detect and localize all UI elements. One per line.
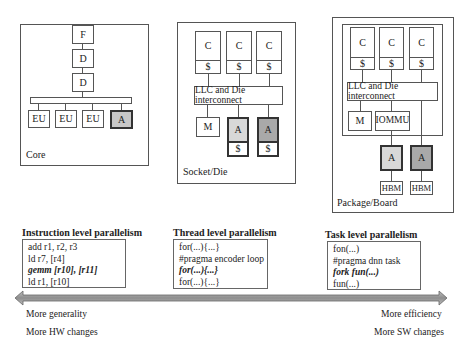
connector — [238, 105, 239, 117]
package-hbm-2: HBM — [410, 181, 433, 195]
package-interconnect: LLC and Die interconnect — [347, 82, 438, 101]
right-label-efficiency: More efficiency — [381, 309, 442, 319]
code-line: ld r7, [r4] — [28, 254, 120, 266]
package-cache-3: $ — [409, 57, 434, 70]
socket-core-2: C — [226, 31, 252, 61]
decode-block-2: D — [72, 73, 94, 92]
socket-interconnect: LLC and Die interconnect — [194, 86, 283, 105]
execution-unit-1: EU — [28, 110, 50, 128]
socket-cache-3: $ — [256, 60, 282, 74]
code-line: for(...){...} — [179, 242, 262, 254]
code-line-emphasized: for(...){...} — [179, 265, 262, 277]
socket-accelerator-2: A — [257, 117, 279, 143]
ilp-code-box: add r1, r2, r3 ld r7, [r4] gemm [r10], [… — [22, 239, 126, 288]
connector — [207, 105, 208, 117]
package-core-1: C — [350, 27, 375, 58]
code-line: add r1, r2, r3 — [28, 242, 120, 254]
code-line: fon(...) — [333, 244, 415, 256]
ilp-title: Instruction level parallelism — [22, 227, 142, 238]
package-cache-1: $ — [350, 57, 375, 70]
connector — [391, 101, 392, 111]
decode-block-1: D — [72, 49, 94, 68]
code-line: fun(...) — [333, 279, 415, 291]
left-label-hw-changes: More HW changes — [26, 327, 98, 337]
socket-core-1: C — [195, 31, 221, 61]
socket-memory: M — [196, 117, 220, 137]
code-line: #pragma encoder loop — [179, 254, 262, 266]
socket-accelerator-1: A — [227, 117, 249, 143]
package-iommu: IOMMU — [375, 111, 410, 131]
socket-accelerator-2-cache: $ — [257, 142, 279, 157]
dispatch-bus — [30, 97, 132, 104]
code-line-emphasized: gemm [r10], [r11] — [28, 265, 120, 277]
connector — [421, 70, 422, 82]
code-line: #pragma dnn task — [333, 256, 415, 268]
package-accelerator-2: A — [410, 145, 433, 171]
execution-unit-3: EU — [82, 110, 104, 128]
task-code-box: fon(...) #pragma dnn task fork fun(...) … — [327, 241, 421, 290]
task-title: Task level parallelism — [325, 229, 417, 240]
tlp-code-box: for(...){...} #pragma encoder loop for(.… — [173, 239, 268, 289]
core-label: Core — [26, 149, 45, 160]
socket-accelerator-1-cache: $ — [227, 142, 249, 157]
code-line: ld r1, [r10] — [28, 277, 120, 289]
package-label: Package/Board — [337, 197, 398, 208]
socket-core-3: C — [256, 31, 282, 61]
core-frame — [20, 24, 149, 166]
socket-cache-2: $ — [226, 60, 252, 74]
package-core-2: C — [379, 27, 404, 58]
package-accelerator-1: A — [380, 145, 403, 171]
package-memory: M — [348, 111, 372, 131]
connector — [269, 74, 270, 86]
left-label-generality: More generality — [26, 309, 87, 319]
package-hbm-1: HBM — [380, 181, 403, 195]
socket-cache-1: $ — [195, 60, 221, 74]
right-label-sw-changes: More SW changes — [374, 327, 444, 337]
socket-label: Socket/Die — [183, 166, 227, 177]
connector — [268, 105, 269, 117]
fetch-block: F — [72, 25, 94, 44]
connector — [421, 171, 422, 181]
tlp-title: Thread level parallelism — [173, 227, 277, 238]
connector — [360, 101, 361, 111]
core-accelerator: A — [110, 110, 133, 129]
code-line: for(...){...} — [179, 277, 262, 289]
tradeoff-double-arrow — [14, 290, 448, 306]
execution-unit-2: EU — [55, 110, 77, 128]
package-cache-2: $ — [379, 57, 404, 70]
connector — [391, 171, 392, 181]
package-core-3: C — [409, 27, 434, 58]
code-line-emphasized: fork fun(...) — [333, 267, 415, 279]
